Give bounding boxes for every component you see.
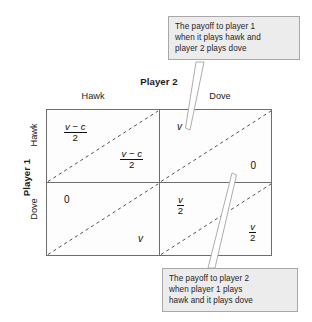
column-player-title: Player 2 <box>46 76 272 87</box>
payoff-player1-hawk-dove: v <box>177 122 182 132</box>
cell-dove-dove: v 2 v 2 <box>160 183 272 256</box>
callout-top-line3: player 2 plays dove <box>175 43 294 54</box>
cell-hawk-dove: v 0 <box>160 110 272 183</box>
payoff-player2-hawk-dove: 0 <box>250 161 256 171</box>
callout-top-line1: The payoff to player 1 <box>175 21 294 32</box>
cell-diagonal-icon <box>160 183 272 256</box>
payoff-player2-hawk-hawk: v − c 2 <box>120 149 143 170</box>
payoff-player1-dove-hawk: 0 <box>64 195 70 205</box>
callout-bottom: The payoff to player 2 when player 1 pla… <box>162 268 298 312</box>
payoff-player2-dove-dove: v 2 <box>249 222 256 243</box>
callout-bottom-line1: The payoff to player 2 <box>169 273 292 284</box>
cell-diagonal-icon <box>47 110 159 183</box>
row-header-dove: Dove <box>29 174 39 244</box>
row-header-hawk: Hawk <box>29 100 39 170</box>
figure-canvas: Player 2 Player 1 Hawk Dove Hawk Dove v … <box>0 0 312 322</box>
payoff-player1-hawk-hawk: v − c 2 <box>64 122 87 143</box>
payoff-player1-dove-dove: v 2 <box>177 195 184 216</box>
callout-top: The payoff to player 1 when it plays haw… <box>168 16 300 60</box>
payoff-matrix: v − c 2 v − c 2 v 0 <box>46 109 272 256</box>
cell-hawk-hawk: v − c 2 v − c 2 <box>47 110 159 183</box>
payoff-player2-dove-hawk: v <box>138 234 143 244</box>
column-header-dove: Dove <box>175 91 265 101</box>
callout-bottom-line2: when player 1 plays <box>169 284 292 295</box>
callout-top-line2: when it plays hawk and <box>175 32 294 43</box>
cell-dove-hawk: 0 v <box>47 183 159 256</box>
callout-bottom-line3: hawk and it plays dove <box>169 295 292 306</box>
column-header-hawk: Hawk <box>48 91 138 101</box>
